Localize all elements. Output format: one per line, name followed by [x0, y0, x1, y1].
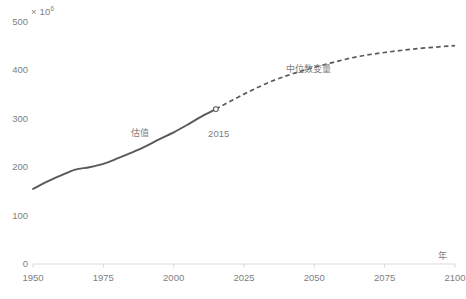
series-line-estimate	[33, 109, 216, 189]
data-point-markers	[213, 107, 218, 112]
series-line-median-variant	[216, 46, 455, 109]
series-annotation-estimate: 估值	[131, 129, 149, 138]
x-axis-ticks	[33, 264, 455, 268]
series-annotation-median-variant: 中位数变量	[286, 65, 331, 74]
data-point-marker-2015	[213, 107, 218, 112]
point-annotation-2015: 2015	[208, 129, 229, 139]
